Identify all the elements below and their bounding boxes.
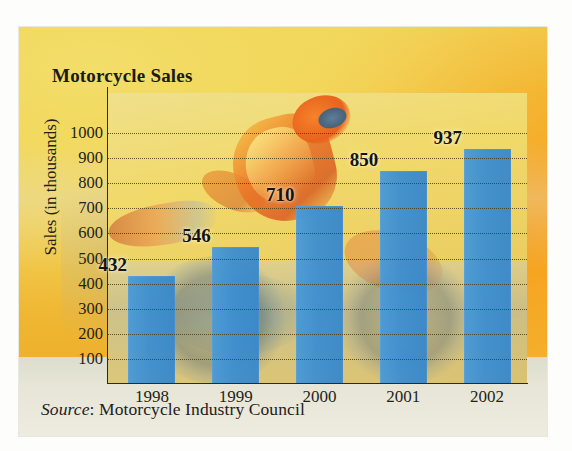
- gridline: [108, 233, 527, 234]
- source-label: Source: [41, 399, 90, 419]
- x-axis-line: [107, 383, 528, 384]
- y-axis-title: Sales (in thousands): [41, 82, 61, 292]
- x-axis-tick-label: 2001: [368, 387, 438, 407]
- y-axis-line: [107, 87, 108, 384]
- chart-screenshot: Motorcycle Sales 10009008007006: [0, 0, 572, 451]
- gridline: [108, 183, 527, 184]
- gridline: [108, 334, 527, 335]
- data-label: 937: [434, 127, 463, 149]
- source-separator: :: [90, 399, 99, 419]
- gridline: [108, 158, 527, 159]
- data-label: 850: [350, 149, 379, 171]
- gridline: [108, 259, 527, 260]
- y-axis-tick-label: 200: [47, 326, 103, 343]
- y-axis-tick-label: 100: [47, 351, 103, 368]
- source-value: Motorcycle Industry Council: [99, 399, 305, 419]
- gridline: [108, 133, 527, 134]
- y-axis-tick-label: 300: [47, 301, 103, 318]
- gridline: [108, 208, 527, 209]
- data-label: 710: [266, 184, 295, 206]
- x-axis-tick-label: 2002: [452, 387, 522, 407]
- data-label: 546: [182, 225, 211, 247]
- gridlines: [108, 93, 527, 384]
- chart-card: Motorcycle Sales 10009008007006: [19, 27, 547, 436]
- gridline: [108, 359, 527, 360]
- plot-area: [108, 93, 527, 384]
- source-note: Source: Motorcycle Industry Council: [41, 399, 305, 420]
- gridline: [108, 284, 527, 285]
- data-label: 432: [98, 254, 127, 276]
- gridline: [108, 309, 527, 310]
